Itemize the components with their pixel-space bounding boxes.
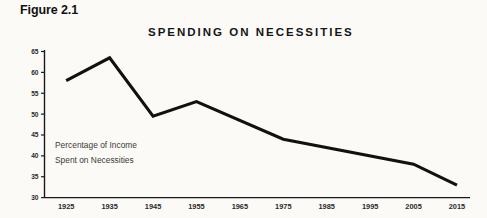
- x-tick-label: 1945: [145, 202, 161, 211]
- x-tick-label: 1955: [188, 202, 204, 211]
- chart-annotation: Percentage of Income Spent on Necessitie…: [55, 140, 137, 165]
- y-tick-label: 50: [31, 111, 39, 118]
- x-tick-label: 1985: [318, 202, 334, 211]
- y-tick-group: 6560555045403530: [31, 48, 44, 201]
- annotation-line-2: Spent on Necessities: [55, 155, 134, 165]
- y-tick-label: 40: [31, 152, 39, 159]
- x-tick-label: 1925: [58, 202, 74, 211]
- annotation-line-1: Percentage of Income: [55, 140, 137, 150]
- y-axis-group: 6560555045403530: [31, 48, 44, 201]
- x-tick-label: 1935: [101, 202, 117, 211]
- x-tick-label: 1995: [362, 202, 378, 211]
- x-tick-label: 1975: [275, 202, 291, 211]
- data-series-line: [66, 58, 457, 185]
- x-tick-group: 1925193519451955196519751985199520052015: [58, 202, 465, 211]
- x-axis-group: 1925193519451955196519751985199520052015: [45, 198, 471, 212]
- y-tick-label: 60: [31, 69, 39, 76]
- y-tick-label: 35: [31, 173, 39, 180]
- y-tick-label: 45: [31, 131, 39, 138]
- line-chart-plot: 6560555045403530 19251935194519551965197…: [0, 0, 487, 218]
- y-tick-label: 30: [31, 194, 39, 201]
- x-tick-label: 2005: [405, 202, 421, 211]
- y-tick-label: 55: [31, 90, 39, 97]
- figure-container: Figure 2.1 SPENDING ON NECESSITIES 65605…: [0, 0, 487, 218]
- x-tick-label: 2015: [449, 202, 465, 211]
- y-tick-label: 65: [31, 48, 39, 55]
- x-tick-label: 1965: [232, 202, 248, 211]
